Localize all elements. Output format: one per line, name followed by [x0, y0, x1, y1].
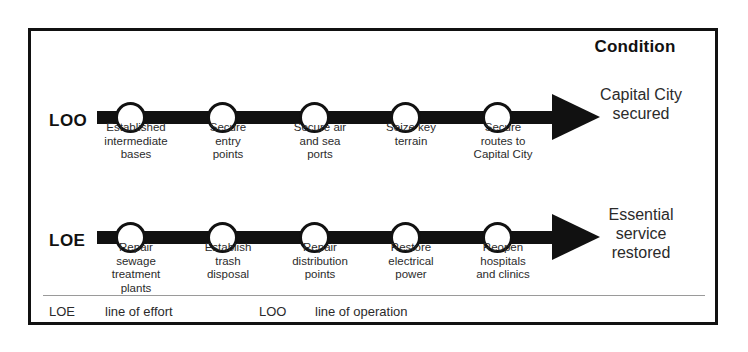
loo-node-1-line-1: Established [87, 121, 185, 135]
loo-condition-line-2: secured [567, 104, 715, 123]
loe-condition-line-2: service [567, 224, 715, 243]
loo-node-caption-5: Secure routes to Capital City [454, 121, 552, 162]
loe-node-2-line-3: disposal [179, 268, 277, 282]
loo-node-1-line-2: intermediate [87, 135, 185, 149]
loo-node-2-line-3: points [179, 148, 277, 162]
line-of-effort-row: LOE Repair sewage treatment plants Estab… [31, 181, 721, 301]
loe-condition-line-3: restored [567, 243, 715, 262]
loe-node-caption-2: Establish trash disposal [179, 241, 277, 282]
loo-node-2-line-1: Secure [179, 121, 277, 135]
loo-node-caption-3: Secure air and sea ports [271, 121, 369, 162]
loe-node-4-line-2: electrical [362, 255, 460, 269]
loo-node-4-line-1: Seize key [362, 121, 460, 135]
loo-node-1-line-3: bases [87, 148, 185, 162]
condition-column-title: Condition [565, 37, 705, 57]
loo-node-4-line-2: terrain [362, 135, 460, 149]
loe-condition-line-1: Essential [567, 205, 715, 224]
loe-node-1-line-3: treatment [87, 268, 185, 282]
loo-node-caption-4: Seize key terrain [362, 121, 460, 148]
loe-node-3-line-2: distribution [271, 255, 369, 269]
loo-condition-line-1: Capital City [567, 85, 715, 104]
loe-node-4-line-3: power [362, 268, 460, 282]
loe-node-3-line-1: Repair [271, 241, 369, 255]
legend-abbr-loe: LOE [49, 303, 75, 321]
loe-node-1-line-4: plants [87, 282, 185, 296]
legend-divider [43, 295, 705, 296]
loe-node-5-line-3: and clinics [454, 268, 552, 282]
legend-abbr-loo: LOO [259, 303, 286, 321]
loe-node-5-line-1: Reopen [454, 241, 552, 255]
loe-node-3-line-3: points [271, 268, 369, 282]
legend-term-loo: line of operation [315, 303, 408, 321]
loe-node-caption-4: Restore electrical power [362, 241, 460, 282]
legend-term-loe: line of effort [105, 303, 173, 321]
loo-node-caption-1: Established intermediate bases [87, 121, 185, 162]
loo-node-5-line-1: Secure [454, 121, 552, 135]
loe-node-1-line-2: sewage [87, 255, 185, 269]
diagram-canvas: Condition LOO Established intermediate b… [0, 0, 748, 352]
loe-node-caption-1: Repair sewage treatment plants [87, 241, 185, 295]
loo-node-3-line-2: and sea [271, 135, 369, 149]
loo-node-3-line-1: Secure air [271, 121, 369, 135]
loo-node-5-line-2: routes to [454, 135, 552, 149]
diagram-frame: Condition LOO Established intermediate b… [28, 28, 718, 325]
loe-node-caption-5: Reopen hospitals and clinics [454, 241, 552, 282]
line-of-operation-row: LOO Established intermediate bases Secur… [31, 61, 721, 181]
loe-node-caption-3: Repair distribution points [271, 241, 369, 282]
loe-node-2-line-2: trash [179, 255, 277, 269]
loo-node-3-line-3: ports [271, 148, 369, 162]
loo-condition-text: Capital City secured [567, 85, 715, 123]
loe-node-5-line-2: hospitals [454, 255, 552, 269]
legend: LOE line of effort LOO line of operation [31, 303, 721, 325]
loo-node-2-line-2: entry [179, 135, 277, 149]
loe-node-2-line-1: Establish [179, 241, 277, 255]
loe-node-4-line-1: Restore [362, 241, 460, 255]
loe-node-1-line-1: Repair [87, 241, 185, 255]
loo-node-5-line-3: Capital City [454, 148, 552, 162]
loo-node-caption-2: Secure entry points [179, 121, 277, 162]
loe-condition-text: Essential service restored [567, 205, 715, 262]
